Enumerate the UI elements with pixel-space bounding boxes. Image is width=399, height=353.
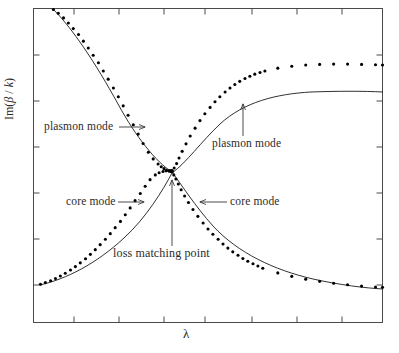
data-point: [374, 285, 377, 288]
data-point: [44, 281, 47, 284]
data-point: [231, 250, 234, 253]
annotation-core-mode-left: core mode: [66, 196, 116, 208]
data-point: [261, 267, 264, 270]
data-point: [213, 100, 216, 103]
annotation-plasmon-mode-left: plasmon mode: [44, 121, 113, 133]
data-point: [112, 86, 115, 89]
data-point: [137, 133, 140, 136]
data-point: [117, 95, 120, 98]
data-point: [180, 188, 183, 191]
data-point: [224, 90, 227, 93]
data-point: [97, 61, 100, 64]
data-point: [183, 194, 186, 197]
data-point: [147, 151, 150, 154]
data-point: [346, 283, 349, 286]
data-point: [221, 242, 224, 245]
annotation-plasmon-mode-right: plasmon mode: [212, 138, 281, 150]
data-point: [181, 150, 184, 153]
data-point: [360, 285, 363, 288]
data-point: [290, 275, 293, 278]
data-point: [139, 192, 142, 195]
annotation-core-mode-right: core mode: [230, 196, 280, 208]
data-point: [194, 127, 197, 130]
data-point: [346, 63, 349, 66]
chart-figure: Im(β / k) λ plasmon mode plasmon mode co…: [0, 0, 399, 353]
data-point: [77, 33, 80, 36]
data-point: [226, 247, 229, 250]
data-point: [318, 63, 321, 66]
data-point: [228, 86, 231, 89]
annotation-loss-matching-point: loss matching point: [113, 247, 210, 259]
data-point: [64, 272, 67, 275]
data-point: [157, 162, 160, 165]
data-point: [276, 271, 279, 274]
data-point: [87, 47, 90, 50]
data-point: [74, 265, 77, 268]
data-point: [332, 282, 335, 285]
data-point: [290, 65, 293, 68]
data-point: [62, 16, 65, 19]
data-point: [72, 27, 75, 30]
data-point: [67, 21, 70, 24]
data-point: [132, 123, 135, 126]
data-point: [263, 69, 266, 72]
data-point: [69, 269, 72, 272]
x-axis-label: λ: [183, 326, 189, 342]
curve-plasmon-upper-right: [172, 91, 383, 173]
data-point: [173, 166, 176, 169]
data-point: [304, 278, 307, 281]
data-point: [92, 54, 95, 57]
data-point: [251, 262, 254, 265]
data-point: [218, 95, 221, 98]
data-point: [127, 114, 130, 117]
data-point: [256, 264, 259, 267]
data-point: [160, 165, 163, 168]
data-point: [129, 206, 132, 209]
y-axis-label-suffix: ): [2, 78, 16, 82]
data-point: [122, 104, 125, 107]
data-point: [119, 220, 122, 223]
data-point: [246, 260, 249, 263]
data-point: [258, 71, 261, 74]
data-point: [175, 162, 178, 165]
data-point: [360, 63, 363, 66]
y-axis-label-wrapper: Im(β / k): [2, 10, 20, 120]
data-point: [381, 286, 384, 289]
data-point: [211, 233, 214, 236]
data-point: [152, 157, 155, 160]
data-point: [149, 178, 152, 181]
data-point: [174, 177, 177, 180]
data-point: [196, 215, 199, 218]
data-point: [253, 73, 256, 76]
data-point: [318, 280, 321, 283]
data-point: [79, 261, 82, 264]
data-point: [102, 69, 105, 72]
data-point: [84, 257, 87, 260]
data-point: [89, 253, 92, 256]
data-point: [243, 77, 246, 80]
data-point: [238, 80, 241, 83]
data-point: [236, 254, 239, 257]
data-point: [142, 142, 145, 145]
data-point: [99, 243, 102, 246]
data-point: [248, 75, 251, 78]
data-point: [124, 213, 127, 216]
data-point: [49, 279, 52, 282]
data-point: [198, 119, 201, 122]
data-point: [177, 182, 180, 185]
data-point: [107, 78, 110, 81]
data-point: [374, 63, 377, 66]
data-point: [161, 170, 164, 173]
data-point: [171, 170, 174, 173]
data-point: [57, 12, 60, 15]
data-point: [158, 171, 161, 174]
y-axis-label: Im(β / k): [2, 78, 17, 120]
plot-canvas: [0, 0, 399, 353]
data-point: [172, 173, 175, 176]
data-point: [54, 277, 57, 280]
y-axis-label-prefix: Im(: [2, 103, 16, 120]
data-point: [209, 106, 212, 109]
data-point: [109, 232, 112, 235]
data-point: [104, 238, 107, 241]
data-point: [381, 63, 384, 66]
